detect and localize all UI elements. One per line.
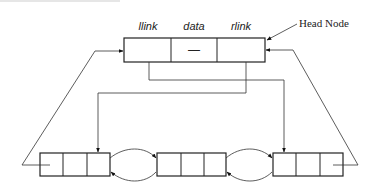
head-llink-pointer — [149, 62, 284, 152]
data-label: data — [183, 20, 204, 32]
head-data-value: — — [188, 43, 200, 57]
linked-list-diagram: llink data rlink Head Node — — [0, 0, 377, 194]
list-node-3 — [273, 153, 343, 176]
head-rlink-pointer — [98, 62, 246, 152]
node2-to-node1-pointer — [111, 172, 156, 181]
head-node-callout: Head Node — [299, 17, 349, 29]
list-node-1 — [40, 153, 110, 176]
list-node-2 — [157, 153, 226, 176]
node1-llink-pointer — [22, 51, 123, 165]
head-node: — — [124, 38, 265, 62]
llink-label: llink — [139, 20, 158, 32]
node1-to-node2-pointer — [110, 149, 156, 158]
callout-arrow-icon — [267, 24, 297, 40]
node3-rlink-pointer — [266, 50, 358, 165]
node3-to-node2-pointer — [227, 172, 272, 181]
node2-to-node3-pointer — [226, 149, 272, 158]
rlink-label: rlink — [231, 20, 252, 32]
